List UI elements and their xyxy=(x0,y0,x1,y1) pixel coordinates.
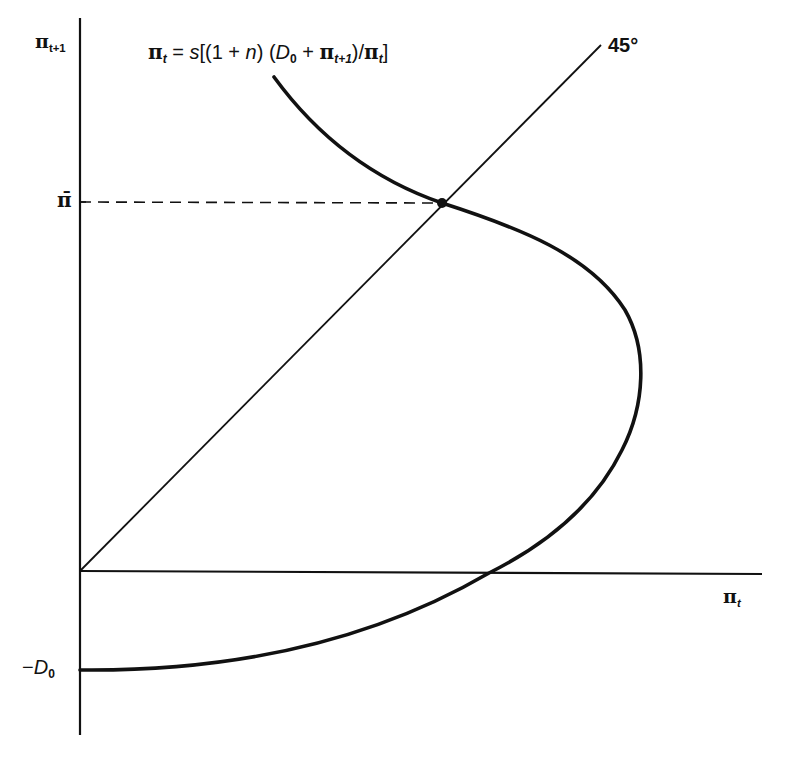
equilibrium-label: π̄ xyxy=(57,188,72,212)
forty-five-degree-line xyxy=(80,45,601,571)
equilibrium-point xyxy=(437,198,447,208)
curve-equation-label: πt = s[(1 + n) (D0 + πt+1)/πt] xyxy=(148,40,388,66)
forty-five-degree-label: 45° xyxy=(608,34,638,57)
diagram-canvas xyxy=(0,0,793,768)
intercept-label: −D0 xyxy=(22,656,55,681)
y-axis-label: πt+1 xyxy=(35,30,66,54)
curve-pi-t xyxy=(80,77,641,670)
x-axis xyxy=(80,571,762,574)
equilibrium-dashed-line xyxy=(80,202,442,203)
x-axis-label: πt xyxy=(723,585,741,609)
